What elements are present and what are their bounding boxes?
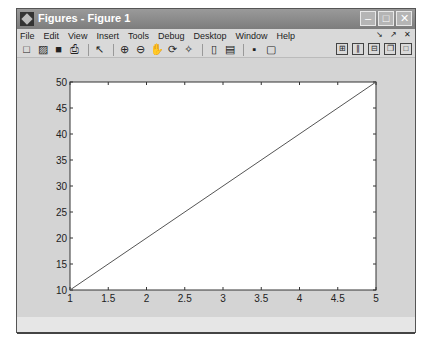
zoom-out-icon[interactable]: ⊖: [134, 43, 147, 56]
y-tick-label: 30: [56, 181, 68, 192]
insert-colorbar-icon[interactable]: ▯: [207, 43, 220, 56]
y-tick-label: 15: [56, 259, 68, 270]
undock-icon[interactable]: ↗: [390, 30, 397, 39]
y-tick-label: 50: [56, 77, 68, 88]
menu-debug[interactable]: Debug: [158, 31, 185, 41]
maximize-button[interactable]: □: [378, 11, 394, 26]
y-tick-label: 20: [56, 233, 68, 244]
tile-rows-icon[interactable]: ⊟: [368, 43, 380, 55]
new-figure-icon[interactable]: □: [20, 43, 33, 56]
zoom-in-icon[interactable]: ⊕: [118, 43, 131, 56]
figure-canvas[interactable]: 11.522.533.544.55 101520253035404550: [17, 58, 415, 317]
x-tick-label: 1: [67, 293, 73, 304]
minimize-button[interactable]: –: [360, 11, 376, 26]
float-icon[interactable]: ❐: [384, 43, 396, 55]
menu-view[interactable]: View: [68, 31, 87, 41]
window-title: Figures - Figure 1: [38, 12, 130, 24]
toolbar-separator: [113, 44, 114, 56]
close-button[interactable]: ✕: [396, 11, 412, 26]
axes[interactable]: 11.522.533.544.55 101520253035404550: [17, 58, 415, 317]
data-cursor-icon[interactable]: ✧: [182, 43, 195, 56]
toolbar-separator: [243, 44, 244, 56]
x-tick-label: 3.5: [254, 293, 268, 304]
x-tick-label: 4.5: [331, 293, 345, 304]
y-tick-label: 25: [56, 207, 68, 218]
y-tick-label: 35: [56, 155, 68, 166]
open-icon[interactable]: ▨: [36, 43, 49, 56]
status-bar: [17, 317, 415, 334]
x-tick-label: 1.5: [101, 293, 115, 304]
menu-insert[interactable]: Insert: [96, 31, 119, 41]
x-tick-label: 2.5: [178, 293, 192, 304]
save-icon[interactable]: ■: [52, 43, 65, 56]
x-tick-label: 5: [373, 293, 379, 304]
print-icon[interactable]: ⎙: [68, 43, 81, 56]
menu-help[interactable]: Help: [277, 31, 296, 41]
menu-window[interactable]: Window: [235, 31, 267, 41]
figure-toolbar: □ ▨ ■ ⎙ ↖ ⊕ ⊖ ✋ ⟳ ✧ ▯ ▤ ▪ ▢ ⊞ ∥ ⊟ ❐ □: [17, 42, 415, 58]
edit-plot-arrow-icon[interactable]: ↖: [93, 43, 106, 56]
close-doc-icon[interactable]: ✕: [404, 30, 411, 39]
x-tick-label: 3: [220, 293, 226, 304]
show-plot-tools-icon[interactable]: ▢: [264, 43, 277, 56]
tile-grid-icon[interactable]: ⊞: [336, 43, 348, 55]
toolbar-separator: [88, 44, 89, 56]
y-tick-label: 10: [56, 285, 68, 296]
pan-hand-icon[interactable]: ✋: [150, 43, 163, 56]
figure-window: Figures - Figure 1 – □ ✕ File Edit View …: [16, 8, 416, 333]
toolbar-separator: [202, 44, 203, 56]
x-tick-label: 2: [144, 293, 150, 304]
x-tick-label: 4: [297, 293, 303, 304]
insert-legend-icon[interactable]: ▤: [223, 43, 236, 56]
menu-desktop[interactable]: Desktop: [193, 31, 226, 41]
rotate-3d-icon[interactable]: ⟳: [166, 43, 179, 56]
dock-icon[interactable]: ↘: [376, 30, 383, 39]
y-tick-label: 40: [56, 129, 68, 140]
y-tick-label: 45: [56, 103, 68, 114]
tile-columns-icon[interactable]: ∥: [352, 43, 364, 55]
hide-plot-tools-icon[interactable]: ▪: [248, 43, 261, 56]
menu-tools[interactable]: Tools: [128, 31, 149, 41]
menu-file[interactable]: File: [20, 31, 35, 41]
menu-edit[interactable]: Edit: [44, 31, 60, 41]
maximize-doc-icon[interactable]: □: [400, 43, 412, 55]
title-bar[interactable]: Figures - Figure 1 – □ ✕: [17, 9, 415, 29]
menu-bar: File Edit View Insert Tools Debug Deskto…: [17, 29, 415, 42]
matlab-figure-icon: [20, 12, 34, 26]
